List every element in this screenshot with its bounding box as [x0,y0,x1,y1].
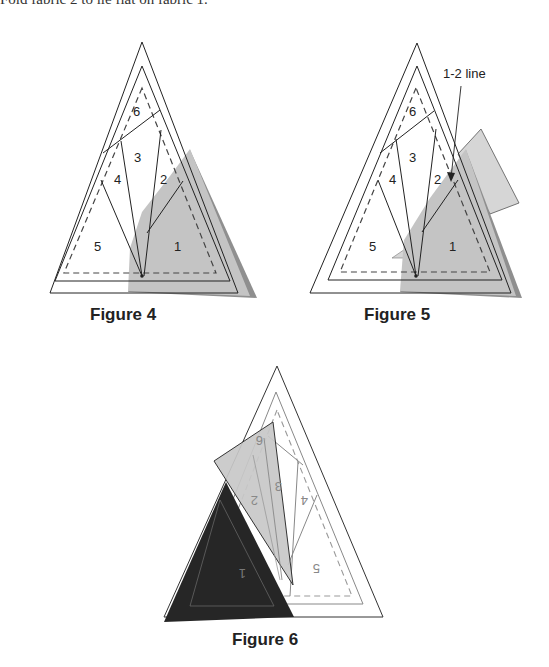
section-label-2: 2 [251,493,258,508]
section-label-4: 4 [301,493,308,508]
section-label-5: 5 [313,561,320,576]
figure-5-caption: Figure 5 [364,305,430,325]
figure-6-diagram: 4 5 1 6 3 2 [0,0,549,667]
section-label-6: 6 [256,433,263,448]
figure-4-caption: Figure 4 [90,305,156,325]
section-label-1: 1 [239,566,246,581]
section-label-3: 3 [275,479,282,494]
figure-6-caption: Figure 6 [232,630,298,650]
